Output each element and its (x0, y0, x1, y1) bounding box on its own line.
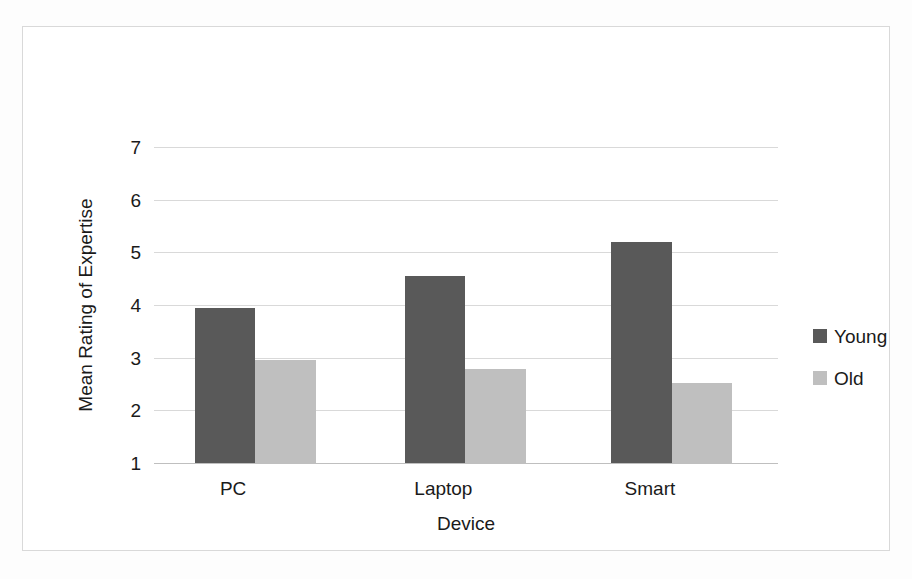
y-axis-tick-label: 6 (107, 190, 141, 209)
bar-laptop-young (405, 276, 466, 463)
y-axis-tick-label: 3 (107, 348, 141, 367)
legend-item-young[interactable]: Young (813, 315, 887, 357)
y-axis-tick-label: 4 (107, 296, 141, 315)
y-axis-tick-label: 2 (107, 401, 141, 420)
y-axis-tick-labels: 1234567 (107, 147, 141, 463)
y-axis-title: Mean Rating of Expertise (71, 147, 101, 463)
gridline (154, 200, 778, 201)
bar-pc-young (195, 308, 256, 463)
x-axis-category-label-smart: Smart (625, 479, 676, 498)
legend-swatch-icon (813, 371, 827, 385)
legend-label: Old (834, 369, 864, 388)
bar-smart-old (672, 383, 733, 463)
legend-swatch-icon (813, 329, 827, 343)
y-axis-tick-label: 1 (107, 454, 141, 473)
x-axis-title: Device (154, 514, 778, 533)
x-axis-baseline (154, 463, 778, 464)
chart-frame: Mean Rating of Expertise 1234567 PCLapto… (22, 26, 890, 551)
y-axis-tick-label: 7 (107, 138, 141, 157)
bar-laptop-old (465, 369, 526, 463)
plot-area (154, 147, 778, 463)
gridline (154, 252, 778, 253)
bar-pc-old (255, 360, 316, 463)
x-axis-category-label-laptop: Laptop (414, 479, 472, 498)
gridline (154, 305, 778, 306)
chart-legend: YoungOld (813, 315, 887, 399)
gridline (154, 147, 778, 148)
bar-smart-young (611, 242, 672, 463)
chart-page: { "chart_data": { "type": "bar", "title"… (0, 0, 912, 579)
legend-item-old[interactable]: Old (813, 357, 887, 399)
x-axis-category-label-pc: PC (220, 479, 246, 498)
legend-label: Young (834, 327, 887, 346)
y-axis-tick-label: 5 (107, 243, 141, 262)
